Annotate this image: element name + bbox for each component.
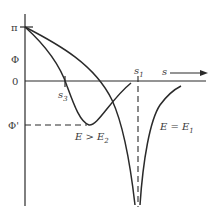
curve-e-greater-e2 [25,27,131,125]
phi-label: Φ [11,54,19,65]
zero-label: 0 [12,76,18,87]
s1-label: s1 [134,65,144,79]
curve-e-equals-e1-right [140,86,181,205]
phi-prime-label: Φ' [8,120,19,131]
s3-label: s3 [58,89,68,103]
e-equals-e1-label: E = E1 [159,121,194,135]
arrow-head-icon [200,70,208,76]
phase-diagram: π Φ 0 Φ' s s1 s3 E > E2 E = E1 [0,0,217,211]
e-greater-e2-label: E > E2 [74,131,109,145]
s-axis-label: s [162,66,167,77]
pi-label: π [11,22,18,33]
